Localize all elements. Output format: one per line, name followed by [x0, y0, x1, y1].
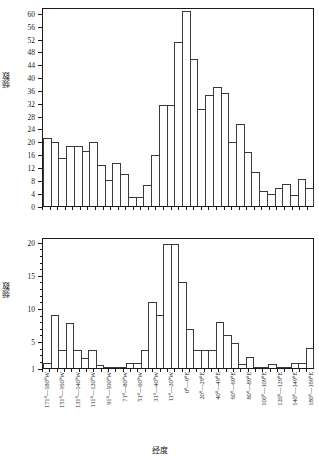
- y-tick-label: 28: [28, 112, 39, 121]
- x-tick-label-cell: 0°—9°E: [182, 372, 190, 444]
- x-tick-mark: [178, 207, 186, 211]
- x-tick-mark: [95, 207, 103, 211]
- y-tick-label: 10: [28, 304, 39, 313]
- x-tick-label-cell: 180°—169°E: [306, 372, 314, 444]
- bar-series-b: [43, 239, 313, 368]
- x-tick-mark: [148, 207, 156, 211]
- y-tick-label: 20: [28, 238, 39, 247]
- x-tick-label-cell: 51°—60°W: [135, 372, 143, 444]
- x-tick-label-cell: [205, 372, 213, 444]
- x-tick-label-cell: [50, 372, 58, 444]
- x-tick-label: 171°—180°W: [42, 372, 49, 408]
- x-tick-mark: [50, 207, 58, 211]
- y-tick-label: 15: [28, 271, 39, 280]
- x-tick-label-cell: 131°—140°W: [73, 372, 81, 444]
- x-tick-label-cell: 11°—20°W: [166, 372, 174, 444]
- x-axis-ticks-a: [42, 207, 314, 211]
- x-tick-label-cell: [96, 372, 104, 444]
- x-tick-label-cell: [143, 372, 151, 444]
- x-tick-mark: [140, 207, 148, 211]
- x-tick-mark: [193, 207, 201, 211]
- x-tick-label-cell: [190, 372, 198, 444]
- x-tick-label: 140°—149°E: [291, 372, 298, 406]
- x-tick-mark: [125, 207, 133, 211]
- x-tick-mark: [80, 207, 88, 211]
- x-tick-mark: [269, 207, 277, 211]
- x-tick-mark: [155, 207, 163, 211]
- x-tick-mark: [163, 207, 171, 211]
- x-tick-label: 31°—40°W: [151, 372, 158, 402]
- y-tick-label: 44: [28, 61, 39, 70]
- x-tick-mark: [87, 207, 95, 211]
- x-tick-mark: [292, 207, 300, 211]
- y-tick-label: 12: [28, 163, 39, 172]
- plot-area-b: [42, 238, 314, 369]
- y-tick-label: 40: [28, 74, 39, 83]
- x-tick-label: 20°—29°E: [198, 372, 205, 399]
- y-tick-label: 60: [28, 9, 39, 18]
- x-tick-mark: [57, 207, 65, 211]
- x-tick-mark: [254, 207, 262, 211]
- x-tick-label: 120°—129°E: [275, 372, 282, 406]
- x-tick-label-cell: [158, 372, 166, 444]
- x-tick-label-cell: 80°—89°E: [244, 372, 252, 444]
- x-tick-label: 180°—169°E: [306, 372, 313, 406]
- x-tick-label-cell: [112, 372, 120, 444]
- x-tick-label: 131°—140°W: [73, 372, 80, 408]
- x-tick-mark: [216, 207, 224, 211]
- x-tick-mark: [103, 207, 111, 211]
- x-tick-label-cell: [221, 372, 229, 444]
- y-axis-label-a: 频数: [1, 72, 12, 88]
- x-tick-label-cell: [298, 372, 306, 444]
- x-tick-mark: [284, 207, 292, 211]
- x-tick-label: 0°—9°E: [182, 372, 189, 393]
- x-tick-mark: [65, 207, 73, 211]
- y-tick-label: 4: [31, 189, 38, 198]
- x-tick-label-cell: 71°—80°W: [120, 372, 128, 444]
- x-tick-label-cell: [236, 372, 244, 444]
- x-tick-label-cell: [127, 372, 135, 444]
- x-tick-mark: [171, 207, 179, 211]
- x-tick-mark: [307, 207, 315, 211]
- y-tick-label: 16: [28, 151, 39, 160]
- x-tick-label-cell: [252, 372, 260, 444]
- x-tick-mark: [201, 207, 209, 211]
- bar: [306, 348, 315, 368]
- bar: [305, 188, 314, 206]
- y-tick-label: 32: [28, 99, 39, 108]
- y-tick-label: 20: [28, 138, 39, 147]
- x-axis-tick-labels: 171°—180°W151°—160°W131°—140°W111°—120°W…: [42, 372, 314, 444]
- y-tick-label: 48: [28, 48, 39, 57]
- x-tick-label-cell: 151°—160°W: [58, 372, 66, 444]
- x-tick-mark: [110, 207, 118, 211]
- x-tick-mark: [299, 207, 307, 211]
- y-tick-label: 0: [31, 202, 38, 211]
- x-tick-mark: [42, 207, 50, 211]
- x-tick-label-cell: [283, 372, 291, 444]
- x-tick-label: 91°—100°W: [105, 372, 112, 405]
- x-tick-label-cell: 120°—129°E: [275, 372, 283, 444]
- x-tick-label: 151°—160°W: [58, 372, 65, 408]
- x-tick-label: 80°—89°E: [244, 372, 251, 399]
- x-axis-title: 经度: [0, 444, 319, 455]
- x-tick-label-cell: [174, 372, 182, 444]
- figure-container: 频数 (a) 04812162024283236404448525660 频数 …: [0, 0, 319, 460]
- x-tick-mark: [133, 207, 141, 211]
- x-tick-label-cell: 31°—40°W: [151, 372, 159, 444]
- plot-area-a: [42, 8, 314, 207]
- y-tick-label: 56: [28, 22, 39, 31]
- x-tick-label-cell: 20°—29°E: [197, 372, 205, 444]
- x-tick-label-cell: [81, 372, 89, 444]
- y-tick-label: 36: [28, 86, 39, 95]
- x-tick-mark: [118, 207, 126, 211]
- x-tick-label: 100°—109°E: [260, 372, 267, 406]
- x-tick-label: 111°—120°W: [89, 372, 96, 407]
- y-tick-label: 1: [31, 364, 38, 373]
- x-tick-label: 51°—60°W: [136, 372, 143, 402]
- bar-series-a: [43, 9, 313, 206]
- y-tick-label: 5: [31, 338, 38, 347]
- y-tick-label: 8: [31, 176, 38, 185]
- x-tick-mark: [72, 207, 80, 211]
- x-tick-label-cell: [65, 372, 73, 444]
- x-tick-label: 40°—49°E: [213, 372, 220, 399]
